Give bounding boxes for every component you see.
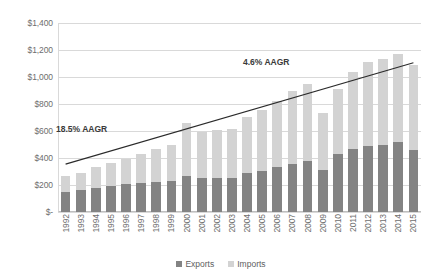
bar-segment-exports[interactable] [363, 146, 373, 212]
x-axis-tick: 1999 [164, 214, 179, 256]
bar-segment-imports[interactable] [272, 101, 282, 167]
stacked-bar[interactable] [409, 65, 419, 212]
bar-segment-imports[interactable] [182, 123, 192, 176]
y-axis-tick-label: $1,000 [5, 72, 53, 82]
x-axis-tick: 1998 [149, 214, 164, 256]
bar-segment-exports[interactable] [227, 178, 237, 212]
bar-segment-imports[interactable] [363, 62, 373, 146]
bar-segment-imports[interactable] [242, 117, 252, 173]
stacked-bar[interactable] [393, 54, 403, 212]
stacked-bar[interactable] [272, 101, 282, 212]
y-axis: $-$200$400$600$800$1,000$1,200$1,400 [0, 23, 53, 212]
stacked-bar[interactable] [121, 159, 131, 212]
stacked-bar[interactable] [288, 91, 298, 212]
bar-segment-imports[interactable] [136, 154, 146, 183]
stacked-bar[interactable] [227, 129, 237, 212]
stacked-bar[interactable] [303, 84, 313, 212]
stacked-bar[interactable] [318, 113, 328, 212]
bar-segment-imports[interactable] [393, 54, 403, 142]
bar-segment-imports[interactable] [151, 149, 161, 182]
stacked-bar[interactable] [182, 123, 192, 212]
bar-segment-imports[interactable] [333, 89, 343, 154]
bar-segment-imports[interactable] [91, 167, 101, 187]
bar-segment-imports[interactable] [61, 176, 71, 192]
bar-segment-imports[interactable] [76, 173, 86, 191]
bar-segment-exports[interactable] [288, 164, 298, 212]
bar-segment-imports[interactable] [409, 65, 419, 150]
stacked-bar[interactable] [212, 130, 222, 212]
chart-legend: ExportsImports [0, 259, 442, 269]
bar-slot [119, 23, 134, 212]
bar-segment-exports[interactable] [242, 173, 252, 212]
stacked-bar[interactable] [61, 176, 71, 212]
x-axis-tick-label: 2011 [348, 214, 358, 232]
legend-label: Exports [185, 259, 214, 269]
bar-segment-exports[interactable] [409, 150, 419, 212]
stacked-bar[interactable] [363, 62, 373, 212]
x-axis-tick: 1993 [73, 214, 88, 256]
bar-segment-exports[interactable] [197, 178, 207, 212]
stacked-bar[interactable] [333, 89, 343, 212]
stacked-bar[interactable] [257, 110, 267, 212]
y-axis-tick-label: $400 [5, 153, 53, 163]
bar-segment-imports[interactable] [106, 163, 116, 185]
bar-segment-imports[interactable] [378, 59, 388, 144]
bar-segment-exports[interactable] [272, 167, 282, 212]
bar-segment-exports[interactable] [182, 176, 192, 212]
bar-segment-exports[interactable] [167, 181, 177, 212]
bar-segment-exports[interactable] [76, 190, 86, 212]
x-axis-tick: 2009 [315, 214, 330, 256]
bar-slot [209, 23, 224, 212]
bar-segment-exports[interactable] [378, 145, 388, 213]
bar-segment-exports[interactable] [212, 178, 222, 212]
x-axis-tick: 2006 [270, 214, 285, 256]
stacked-bar[interactable] [136, 154, 146, 212]
stacked-bar[interactable] [76, 173, 86, 212]
bar-segment-exports[interactable] [393, 142, 403, 212]
bar-slot [361, 23, 376, 212]
bar-segment-exports[interactable] [303, 161, 313, 212]
bar-segment-exports[interactable] [348, 149, 358, 212]
stacked-bar[interactable] [197, 132, 207, 212]
stacked-bar[interactable] [242, 117, 252, 212]
bar-segment-exports[interactable] [257, 171, 267, 212]
bar-segment-imports[interactable] [303, 84, 313, 161]
bar-segment-exports[interactable] [318, 170, 328, 212]
stacked-bar[interactable] [348, 72, 358, 212]
bar-segment-exports[interactable] [106, 186, 116, 212]
bar-slot [88, 23, 103, 212]
bar-segment-exports[interactable] [151, 182, 161, 212]
legend-item[interactable]: Imports [228, 259, 265, 269]
bar-segment-imports[interactable] [318, 113, 328, 170]
stacked-bar[interactable] [151, 149, 161, 212]
bar-segment-imports[interactable] [167, 145, 177, 181]
stacked-bar[interactable] [167, 145, 177, 212]
x-axis-tick: 1994 [88, 214, 103, 256]
stacked-bar[interactable] [106, 163, 116, 212]
bar-segment-imports[interactable] [197, 132, 207, 178]
x-axis-tick-label: 1999 [166, 214, 176, 233]
bar-segment-imports[interactable] [288, 91, 298, 164]
bar-segment-imports[interactable] [257, 110, 267, 171]
bar-segment-exports[interactable] [136, 183, 146, 212]
x-axis-tick-label: 2006 [272, 214, 282, 233]
bar-segment-imports[interactable] [227, 129, 237, 178]
annotation-late-growth: 4.6% AAGR [243, 57, 289, 67]
bars-container [58, 23, 421, 212]
y-axis-tick-label: $200 [5, 180, 53, 190]
legend-item[interactable]: Exports [176, 259, 214, 269]
bar-segment-imports[interactable] [212, 130, 222, 178]
bar-slot [58, 23, 73, 212]
x-axis-tick: 2000 [179, 214, 194, 256]
bar-segment-exports[interactable] [91, 188, 101, 212]
y-axis-tick-label: $600 [5, 126, 53, 136]
bar-segment-imports[interactable] [348, 72, 358, 149]
stacked-bar[interactable] [91, 167, 101, 212]
x-axis-tick-label: 2000 [182, 214, 192, 233]
bar-segment-imports[interactable] [121, 159, 131, 185]
bar-segment-exports[interactable] [61, 192, 71, 212]
x-axis-tick-label: 1993 [76, 214, 86, 233]
stacked-bar[interactable] [378, 59, 388, 212]
bar-segment-exports[interactable] [121, 184, 131, 212]
bar-segment-exports[interactable] [333, 154, 343, 212]
